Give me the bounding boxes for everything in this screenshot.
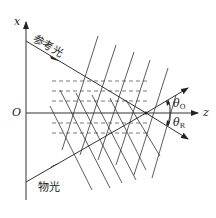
origin-label: O (12, 107, 21, 118)
theta-o-label: θO (173, 98, 185, 111)
z-axis-label: z (203, 107, 209, 118)
object-beam-label: 物光 (38, 182, 60, 193)
object-beam-ray (26, 113, 146, 182)
reference-wavefronts (62, 36, 176, 178)
x-axis-label: x (14, 16, 20, 27)
theta-r-label: θR (173, 117, 185, 130)
convergence-point (144, 111, 147, 114)
